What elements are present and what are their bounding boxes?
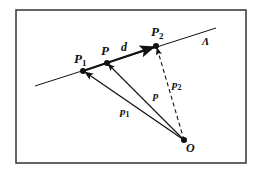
label-d: d xyxy=(121,40,128,54)
direction-vector-d xyxy=(83,47,154,71)
label-lambda: Λ xyxy=(201,35,209,47)
label-vec-p1: p1 xyxy=(119,105,130,119)
vector-p1 xyxy=(85,72,184,140)
label-p1: P1 xyxy=(74,51,87,68)
label-p: P xyxy=(101,43,110,58)
label-vec-p2: p2 xyxy=(171,78,182,92)
point-p2 xyxy=(153,43,159,49)
point-p1 xyxy=(80,68,86,74)
label-p2: P2 xyxy=(151,24,164,41)
point-p xyxy=(104,60,110,66)
diagram-canvas: P1 P d P2 Λ p2 p p1 O xyxy=(0,0,260,173)
vector-p xyxy=(108,64,184,140)
label-vec-p: p xyxy=(152,89,159,101)
label-origin: O xyxy=(186,141,195,155)
